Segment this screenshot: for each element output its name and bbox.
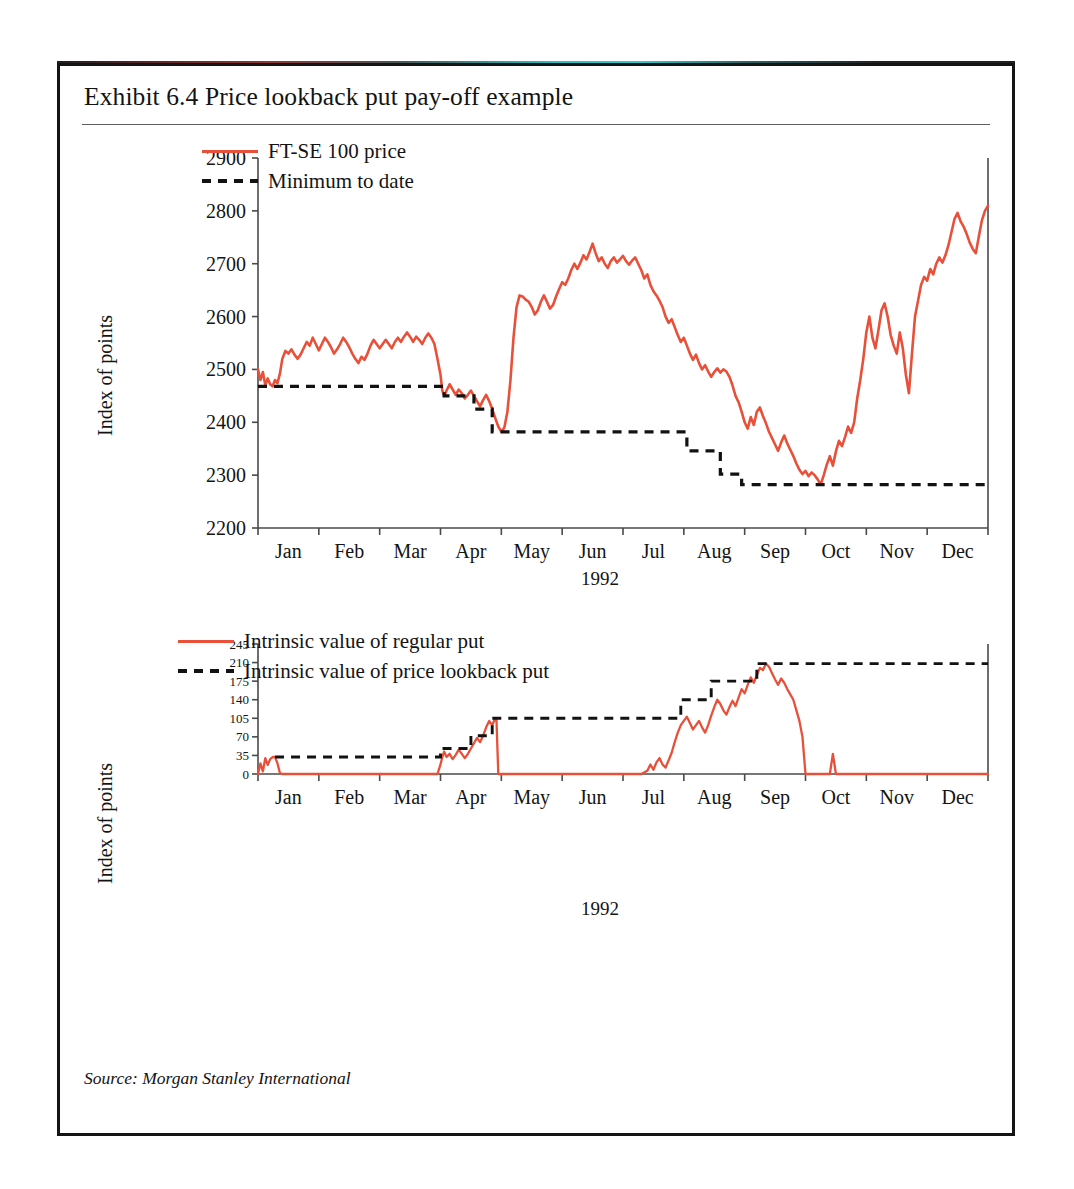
x-tick-label: Jun: [579, 540, 607, 562]
exhibit-frame: Exhibit 6.4 Price lookback put pay-off e…: [57, 63, 1015, 1136]
legend-swatch-solid-line: [178, 640, 234, 643]
y-tick-label: 2300: [206, 464, 246, 486]
y-tick-label: 2200: [206, 517, 246, 539]
legend-label-minimum: Minimum to date: [268, 169, 414, 194]
x-tick-label: May: [513, 540, 550, 563]
legend-label-regular-put: Intrinsic value of regular put: [244, 629, 484, 654]
y-tick-label: 2500: [206, 358, 246, 380]
x-tick-label: Aug: [697, 786, 731, 809]
payoff-chart: Intrinsic value of regular put Intrinsic…: [60, 626, 990, 956]
exhibit-page: Exhibit 6.4 Price lookback put pay-off e…: [0, 0, 1074, 1189]
x-tick-label: Feb: [334, 540, 364, 562]
x-tick-label: Nov: [880, 540, 914, 562]
y-tick-label: 0: [243, 767, 250, 782]
page-title: Exhibit 6.4 Price lookback put pay-off e…: [84, 82, 573, 112]
legend-item-regular-put: Intrinsic value of regular put: [178, 626, 549, 656]
x-tick-label: Jun: [579, 786, 607, 808]
x-tick-label: Nov: [880, 786, 914, 808]
x-tick-label: Feb: [334, 786, 364, 808]
x-tick-label: Jan: [275, 540, 302, 562]
x-tick-label: Apr: [455, 786, 486, 809]
x-tick-label: Sep: [760, 786, 790, 809]
x-tick-label: Mar: [393, 540, 427, 562]
source-note: Source: Morgan Stanley International: [84, 1068, 351, 1089]
x-tick-label: Dec: [941, 786, 973, 808]
payoff-chart-legend: Intrinsic value of regular put Intrinsic…: [178, 626, 549, 686]
x-tick-label: Jan: [275, 786, 302, 808]
legend-label-ftse: FT-SE 100 price: [268, 139, 406, 164]
x-tick-label: Aug: [697, 540, 731, 563]
x-tick-label: Oct: [821, 786, 850, 808]
legend-item-ftse: FT-SE 100 price: [202, 136, 414, 166]
y-tick-label: 70: [236, 729, 249, 744]
price-chart-legend: FT-SE 100 price Minimum to date: [202, 136, 414, 196]
x-tick-label: Mar: [393, 786, 427, 808]
payoff-chart-ylabel: Index of points: [94, 763, 117, 884]
x-tick-label: Oct: [821, 540, 850, 562]
y-tick-label: 105: [230, 711, 250, 726]
y-tick-label: 2700: [206, 253, 246, 275]
y-tick-label: 140: [230, 692, 250, 707]
x-tick-label: Apr: [455, 540, 486, 563]
y-tick-label: 35: [236, 748, 249, 763]
x-tick-label: Jul: [642, 786, 666, 808]
legend-item-lookback-put: Intrinsic value of price lookback put: [178, 656, 549, 686]
series-line-ft-se-100-price: [258, 206, 988, 485]
legend-label-lookback-put: Intrinsic value of price lookback put: [244, 659, 549, 684]
legend-item-minimum: Minimum to date: [202, 166, 414, 196]
legend-swatch-solid-line: [202, 150, 258, 153]
price-chart-xlabel: 1992: [200, 568, 1000, 590]
title-divider: [82, 124, 990, 125]
series-step-minimum-to-date: [258, 386, 988, 484]
x-tick-label: Jul: [642, 540, 666, 562]
y-tick-label: 2400: [206, 411, 246, 433]
y-tick-label: 2800: [206, 200, 246, 222]
price-chart-ylabel: Index of points: [94, 315, 117, 436]
y-tick-label: 2600: [206, 306, 246, 328]
price-chart-plot: 22002300240025002600270028002900JanFebMa…: [60, 136, 990, 566]
x-tick-label: Dec: [941, 540, 973, 562]
price-chart: FT-SE 100 price Minimum to date Index of…: [60, 136, 990, 596]
x-tick-label: Sep: [760, 540, 790, 563]
x-tick-label: May: [513, 786, 550, 809]
payoff-chart-xlabel: 1992: [200, 898, 1000, 920]
